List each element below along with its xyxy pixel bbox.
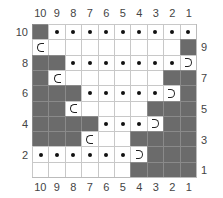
column-label: 8 (65, 180, 82, 194)
column-label: 4 (131, 6, 148, 20)
stitch-cell-wrap-right (180, 55, 196, 70)
stitch-cell-blank (114, 39, 130, 54)
row-label-right: 7 (201, 71, 221, 85)
stitch-cell-dot (163, 24, 179, 39)
purl-dot-icon (88, 91, 92, 95)
row-label-left: 6 (8, 86, 28, 100)
stitch-cell-blank (130, 70, 146, 85)
stitch-cell-shaded (180, 162, 196, 177)
column-label: 6 (98, 6, 115, 20)
stitch-cell-shaded (48, 85, 64, 100)
stitch-cell-wrap-right (163, 85, 179, 100)
row-label-left: 10 (8, 25, 28, 39)
stitch-cell-shaded (48, 116, 64, 131)
column-label: 1 (181, 180, 198, 194)
stitch-cell-wrap-left (81, 131, 97, 146)
purl-dot-icon (104, 61, 108, 65)
stitch-cell-dot (81, 24, 97, 39)
column-label: 10 (32, 180, 49, 194)
stitch-cell-dot (114, 146, 130, 161)
column-label: 7 (82, 6, 99, 20)
wrap-right-icon (152, 119, 159, 128)
stitch-cell-shaded (32, 85, 48, 100)
stitch-cell-shaded (65, 131, 81, 146)
stitch-cell-shaded (32, 24, 48, 39)
stitch-cell-dot (65, 55, 81, 70)
purl-dot-icon (170, 30, 174, 34)
stitch-cell-shaded (32, 101, 48, 116)
stitch-cell-dot (180, 24, 196, 39)
stitch-cell-blank (114, 70, 130, 85)
stitch-cell-shaded (163, 162, 179, 177)
stitch-cell-shaded (180, 70, 196, 85)
stitch-cell-shaded (163, 146, 179, 161)
wrap-right-icon (136, 150, 143, 159)
stitch-cell-dot (147, 85, 163, 100)
purl-dot-icon (137, 30, 141, 34)
purl-dot-icon (121, 153, 125, 157)
stitch-cell-blank (98, 70, 114, 85)
stitch-cell-shaded (130, 131, 146, 146)
stitch-cell-dot (32, 146, 48, 161)
stitch-cell-shaded (147, 162, 163, 177)
stitch-cell-wrap-right (147, 116, 163, 131)
stitch-cell-dot (81, 85, 97, 100)
purl-dot-icon (71, 30, 75, 34)
stitch-cell-shaded (163, 70, 179, 85)
stitch-cell-blank (81, 39, 97, 54)
stitch-cell-dot (114, 55, 130, 70)
row-label-right: 1 (201, 163, 221, 177)
stitch-cell-shaded (81, 116, 97, 131)
column-labels-bottom: 10 9 8 7 6 5 4 3 2 1 (32, 180, 197, 194)
wrap-left-icon (54, 74, 61, 83)
stitch-cell-shaded (32, 70, 48, 85)
purl-dot-icon (104, 91, 108, 95)
stitch-grid (32, 24, 197, 178)
column-label: 8 (65, 6, 82, 20)
stitch-cell-blank (98, 39, 114, 54)
purl-dot-icon (104, 153, 108, 157)
column-label: 5 (115, 180, 132, 194)
row-label-right: 3 (201, 133, 221, 147)
purl-dot-icon (71, 153, 75, 157)
column-label: 2 (164, 180, 181, 194)
stitch-cell-blank (98, 101, 114, 116)
stitch-cell-wrap-right (130, 146, 146, 161)
stitch-cell-shaded (32, 116, 48, 131)
stitch-cell-shaded (163, 101, 179, 116)
stitch-cell-shaded (180, 85, 196, 100)
stitch-cell-dot (130, 24, 146, 39)
stitch-cell-dot (65, 146, 81, 161)
stitch-cell-shaded (48, 131, 64, 146)
column-label: 6 (98, 180, 115, 194)
row-label-left: 8 (8, 56, 28, 70)
stitch-cell-blank (147, 39, 163, 54)
stitch-cell-shaded (65, 85, 81, 100)
stitch-cell-dot (98, 24, 114, 39)
stitch-cell-dot (81, 55, 97, 70)
purl-dot-icon (88, 153, 92, 157)
row-label-right: 9 (201, 40, 221, 54)
stitch-cell-dot (81, 146, 97, 161)
stitch-cell-dot (130, 85, 146, 100)
stitch-cell-blank (81, 101, 97, 116)
purl-dot-icon (137, 91, 141, 95)
stitch-cell-shaded (130, 162, 146, 177)
stitch-cell-shaded (48, 101, 64, 116)
stitch-cell-dot (114, 24, 130, 39)
column-label: 7 (82, 180, 99, 194)
stitch-cell-shaded (180, 146, 196, 161)
purl-dot-icon (121, 30, 125, 34)
stitch-cell-blank (65, 70, 81, 85)
column-label: 1 (181, 6, 198, 20)
purl-dot-icon (121, 91, 125, 95)
stitch-cell-blank (114, 131, 130, 146)
row-label-right: 5 (201, 102, 221, 116)
purl-dot-icon (186, 30, 190, 34)
stitch-cell-blank (98, 162, 114, 177)
stitch-cell-dot (114, 85, 130, 100)
stitch-cell-shaded (65, 116, 81, 131)
stitch-cell-shaded (32, 55, 48, 70)
purl-dot-icon (153, 30, 157, 34)
stitch-cell-dot (114, 116, 130, 131)
